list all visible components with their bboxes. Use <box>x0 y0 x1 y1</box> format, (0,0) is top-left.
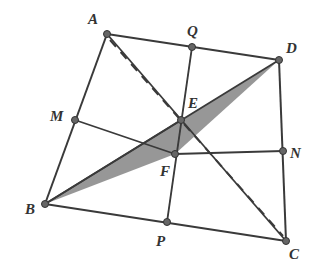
geometry-diagram: A Q D M E F N B P C <box>0 0 323 276</box>
label-P: P <box>156 233 166 249</box>
label-D: D <box>285 40 297 56</box>
label-Q: Q <box>187 23 198 39</box>
label-B: B <box>24 201 35 217</box>
label-E: E <box>187 95 198 111</box>
label-F: F <box>159 163 170 179</box>
label-M: M <box>49 108 64 124</box>
label-N: N <box>289 145 302 161</box>
label-A: A <box>87 11 98 27</box>
label-C: C <box>289 246 300 262</box>
